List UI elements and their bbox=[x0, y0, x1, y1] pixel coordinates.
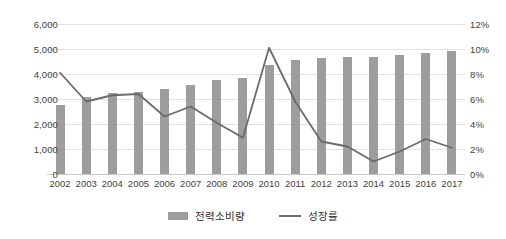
chart-legend: 전력소비량성장률 bbox=[0, 208, 506, 223]
y-axis-right-tick: 12% bbox=[470, 19, 506, 30]
plot-area bbox=[47, 24, 465, 174]
x-axis-tick-label: 2017 bbox=[434, 178, 470, 189]
line-path bbox=[60, 48, 452, 162]
y-axis-right-tick: 2% bbox=[470, 144, 506, 155]
legend-item[interactable]: 성장률 bbox=[279, 208, 338, 223]
x-axis-labels: 2002200320042005200620072008200920102011… bbox=[47, 178, 465, 194]
gridline bbox=[47, 174, 465, 175]
y-axis-left-tick: 1,000 bbox=[14, 144, 58, 155]
y-axis-left-tick: 4,000 bbox=[14, 69, 58, 80]
y-axis-right-tick: 0% bbox=[470, 169, 506, 180]
legend-bar-swatch-icon bbox=[168, 212, 188, 220]
y-axis-right-tick: 10% bbox=[470, 44, 506, 55]
y-axis-right-tick: 6% bbox=[470, 94, 506, 105]
legend-line-swatch-icon bbox=[279, 215, 301, 217]
y-axis-right-tick: 8% bbox=[470, 69, 506, 80]
y-axis-right-tick: 4% bbox=[470, 119, 506, 130]
legend-item[interactable]: 전력소비량 bbox=[168, 208, 245, 223]
chart-container: 01,0002,0003,0004,0005,0006,000 0%2%4%6%… bbox=[0, 0, 506, 239]
y-axis-left-tick: 5,000 bbox=[14, 44, 58, 55]
legend-label: 성장률 bbox=[308, 208, 338, 223]
legend-label: 전력소비량 bbox=[195, 208, 245, 223]
y-axis-left-tick: 6,000 bbox=[14, 19, 58, 30]
y-axis-left-tick: 3,000 bbox=[14, 94, 58, 105]
y-axis-left-tick: 2,000 bbox=[14, 119, 58, 130]
line-series-성장률 bbox=[47, 24, 465, 174]
